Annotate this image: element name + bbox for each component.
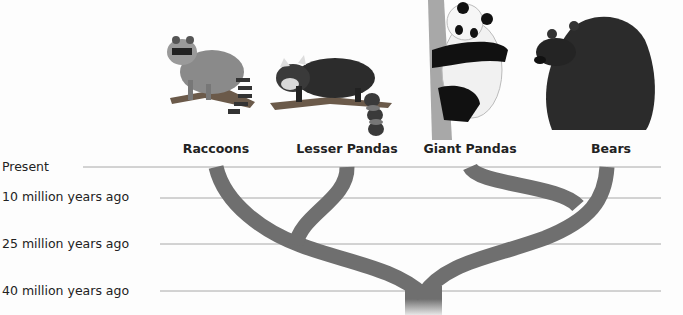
giant-panda-illustration xyxy=(428,0,508,140)
time-label-present: Present xyxy=(2,159,49,174)
raccoon-illustration xyxy=(167,36,255,114)
branches xyxy=(216,167,607,295)
branch-giant-pandas xyxy=(470,167,578,206)
taxon-label-bears: Bears xyxy=(591,141,631,156)
bear-illustration xyxy=(534,17,655,130)
lesser-panda-illustration xyxy=(270,55,392,136)
time-label-25mya: 25 million years ago xyxy=(2,236,129,251)
tree-graphic xyxy=(0,0,683,315)
taxon-label-lesser-pandas: Lesser Pandas xyxy=(296,141,397,156)
time-label-40mya: 40 million years ago xyxy=(2,283,129,298)
phylogeny-diagram: Present 10 million years ago 25 million … xyxy=(0,0,683,315)
time-label-10mya: 10 million years ago xyxy=(2,189,129,204)
branch-lesser-pandas xyxy=(296,167,347,245)
trunk-root xyxy=(405,286,442,315)
taxon-label-raccoons: Raccoons xyxy=(183,141,249,156)
taxon-label-giant-pandas: Giant Pandas xyxy=(423,141,516,156)
branch-raccoons xyxy=(216,167,423,295)
